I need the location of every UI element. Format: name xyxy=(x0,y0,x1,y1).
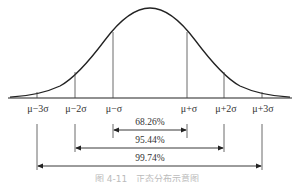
tick-mu-minus-sigma: μ−σ xyxy=(106,103,122,114)
figure-caption: 图 4-11 正态分布示意图 xyxy=(95,172,199,182)
tick-mu-minus-2sigma: μ−2σ xyxy=(65,103,86,114)
tick-mu-plus-2sigma: μ+2σ xyxy=(215,103,236,114)
percent-99: 99.74% xyxy=(135,153,164,163)
bell-curve xyxy=(10,8,290,97)
tick-mu-plus-3sigma: μ+3σ xyxy=(252,103,273,114)
tick-mu-minus-3sigma: μ−3σ xyxy=(27,103,48,114)
percent-95: 95.44% xyxy=(135,135,164,145)
tick-mu-plus-sigma: μ+σ xyxy=(181,103,197,114)
percent-68: 68.26% xyxy=(135,117,164,127)
